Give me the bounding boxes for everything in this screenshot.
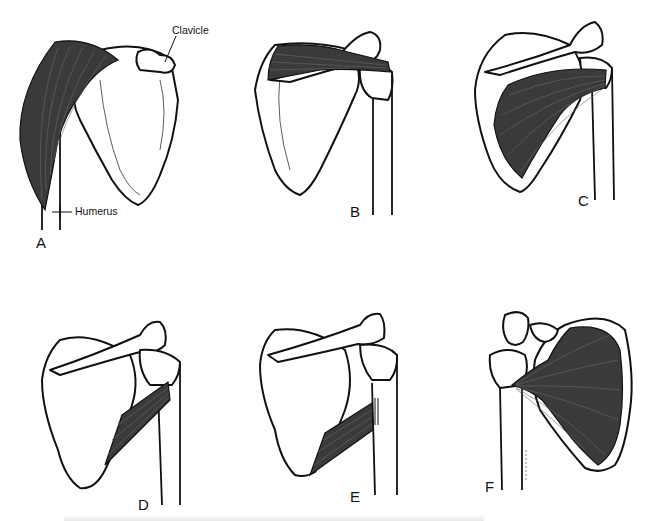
panel-c: C [430, 0, 654, 250]
figure-caption-cropped [64, 515, 484, 521]
panel-a-illustration [0, 0, 220, 260]
panel-f-illustration [430, 300, 654, 521]
panel-d-label: D [138, 496, 149, 513]
humerus-head [360, 344, 397, 380]
clavicle-label: Clavicle [172, 24, 209, 36]
panel-e: E [220, 300, 430, 521]
panel-e-label: E [350, 488, 360, 505]
panel-f-label: F [485, 478, 494, 495]
infraspinatus-muscle [494, 69, 606, 178]
panel-a-label: A [36, 234, 46, 251]
humerus-label: Humerus [75, 205, 118, 217]
coracoid-process [503, 312, 528, 345]
panel-b-label: B [350, 203, 360, 220]
humerus-shaft [500, 388, 502, 490]
humerus-head [140, 350, 180, 385]
panel-f: F [430, 300, 654, 521]
humerus-shaft [592, 88, 595, 200]
acromion [530, 323, 558, 342]
panel-d-illustration [0, 300, 220, 521]
panel-b: B [220, 20, 430, 250]
panel-c-label: C [578, 192, 589, 209]
panel-e-illustration [220, 300, 430, 521]
panel-d: D [0, 300, 220, 521]
panel-a: Clavicle Humerus A [0, 0, 220, 260]
panel-b-illustration [220, 20, 430, 250]
panel-c-illustration [430, 0, 654, 250]
